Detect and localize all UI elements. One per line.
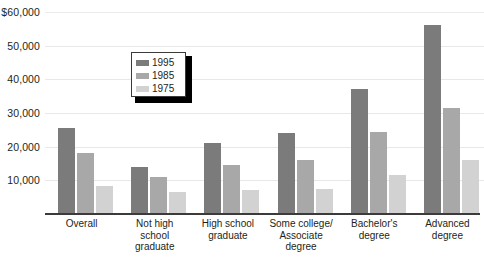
bar — [389, 175, 406, 214]
legend: 199519851975 — [131, 52, 188, 99]
legend-item[interactable]: 1975 — [136, 83, 182, 95]
x-axis-line — [45, 213, 480, 215]
bar-group — [351, 12, 406, 214]
legend-swatch-icon — [136, 86, 149, 92]
bar-group — [278, 12, 333, 214]
plot-area — [45, 12, 484, 214]
y-axis-tick-label: 20,000 — [7, 141, 40, 153]
bar — [77, 153, 94, 214]
bar — [131, 167, 148, 214]
legend-swatch-icon — [136, 60, 149, 66]
legend-item-label: 1985 — [152, 71, 174, 81]
x-axis-category-label: Advanced degree — [403, 218, 484, 241]
bar — [370, 132, 387, 214]
y-axis-tick-label: $60,000 — [1, 6, 40, 18]
bar — [351, 89, 368, 214]
y-axis-tick-label: 30,000 — [7, 107, 40, 119]
legend-item-label: 1975 — [152, 84, 174, 94]
bar — [242, 190, 259, 214]
bar — [169, 192, 186, 214]
bar — [462, 160, 479, 214]
y-axis-tick-label: 40,000 — [7, 73, 40, 85]
legend-item-label: 1995 — [152, 58, 174, 68]
bar-group — [58, 12, 113, 214]
legend-item[interactable]: 1985 — [136, 70, 182, 82]
y-axis-tick-label: 10,000 — [7, 174, 40, 186]
bar — [58, 128, 75, 214]
bar — [316, 189, 333, 214]
bar — [443, 108, 460, 214]
bar — [150, 177, 167, 214]
legend-box: 199519851975 — [131, 52, 186, 97]
bar-chart: $60,00050,00040,00030,00020,00010,000 19… — [0, 0, 484, 263]
bar — [424, 25, 441, 214]
bar — [96, 186, 113, 214]
legend-swatch-icon — [136, 73, 149, 79]
bar-group — [131, 12, 186, 214]
legend-item[interactable]: 1995 — [136, 57, 182, 69]
bar-group — [204, 12, 259, 214]
bar — [223, 165, 240, 214]
bar — [278, 133, 295, 214]
bar-group — [424, 12, 479, 214]
y-axis-tick-label: 50,000 — [7, 40, 40, 52]
bar — [297, 160, 314, 214]
bar — [204, 143, 221, 214]
